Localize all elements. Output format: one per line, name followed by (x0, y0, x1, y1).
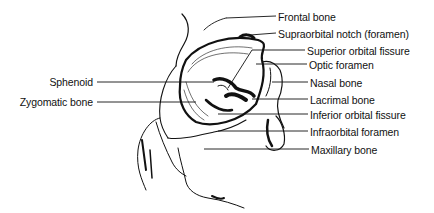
skull-orbit-diagram: Frontal bone Supraorbital notch (foramen… (0, 0, 434, 213)
label-supraorbital-notch: Supraorbital notch (foramen) (278, 28, 409, 40)
label-zygomatic-bone: Zygomatic bone (20, 96, 93, 108)
label-nasal-bone: Nasal bone (310, 77, 362, 89)
label-optic-foramen: Optic foramen (309, 59, 374, 71)
label-maxillary-bone: Maxillary bone (311, 144, 377, 156)
label-lacrimal-bone: Lacrimal bone (310, 94, 375, 106)
label-infraorbital-foramen: Infraorbital foramen (310, 126, 399, 138)
label-frontal-bone: Frontal bone (278, 11, 336, 23)
label-inferior-orbital-fissure: Inferior orbital fissure (310, 109, 406, 121)
label-sphenoid: Sphenoid (49, 76, 93, 88)
label-superior-orbital-fissure: Superior orbital fissure (307, 45, 410, 57)
